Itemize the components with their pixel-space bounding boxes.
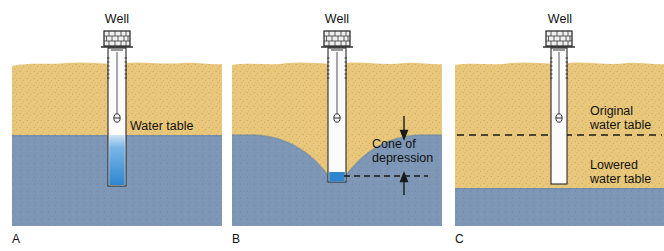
pump-housing-b [321, 31, 353, 50]
label-lowered-water-table: Lowered water table [590, 158, 651, 186]
pump-housing-c [543, 31, 575, 50]
pump-intake-marker-a [114, 114, 120, 122]
pipe-water-column-a [109, 135, 125, 185]
label-original-water-table: Original water table [590, 104, 651, 132]
panel-letter-b: B [232, 232, 240, 246]
panel-a: Well [12, 0, 222, 251]
panel-b-illustration [232, 0, 442, 251]
label-water-table: Water table [130, 119, 193, 133]
pump-intake-marker-c [556, 114, 562, 122]
panel-letter-c: C [455, 232, 464, 246]
pump-housing-a [101, 31, 133, 50]
panel-letter-a: A [12, 232, 20, 246]
panel-b: Well [232, 0, 442, 251]
pipe-water-slug-b [329, 172, 345, 182]
saturated-zone-c [455, 188, 664, 236]
panel-c: Well [455, 0, 664, 251]
label-cone-of-depression: Cone of depression [372, 137, 433, 165]
groundwater-well-figure: Well [0, 0, 664, 251]
pump-intake-marker-b [334, 114, 340, 122]
